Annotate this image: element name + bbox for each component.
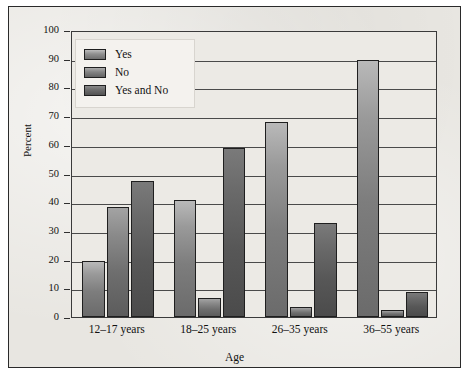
gridline	[72, 176, 436, 177]
legend-item-label: Yes	[115, 49, 132, 61]
y-tick-mark	[64, 261, 70, 262]
bar[interactable]	[406, 292, 429, 317]
x-tick-label: 36–55 years	[346, 323, 438, 335]
bar[interactable]	[107, 207, 130, 317]
figure-frame: Percent 0102030405060708090100 12–17 yea…	[8, 6, 461, 368]
legend-swatch-icon	[84, 67, 106, 78]
legend-item[interactable]: No	[84, 65, 186, 80]
y-tick-mark	[64, 146, 70, 147]
y-tick-label: 40	[33, 197, 59, 208]
y-tick-label: 90	[33, 54, 59, 65]
y-tick-label: 20	[33, 255, 59, 266]
bar[interactable]	[265, 122, 288, 317]
y-axis-title: Percent	[21, 124, 33, 157]
bar[interactable]	[357, 60, 380, 317]
x-tick-label: 12–17 years	[71, 323, 163, 335]
bar[interactable]	[174, 200, 197, 317]
bar[interactable]	[381, 310, 404, 317]
gridline	[72, 118, 436, 119]
y-tick-label: 80	[33, 82, 59, 93]
legend-item[interactable]: Yes and No	[84, 83, 186, 98]
y-tick-mark	[64, 318, 70, 319]
bar[interactable]	[290, 307, 313, 317]
y-tick-mark	[64, 88, 70, 89]
y-tick-mark	[64, 117, 70, 118]
y-tick-mark	[64, 289, 70, 290]
y-tick-label: 70	[33, 111, 59, 122]
legend: Yes No Yes and No	[75, 39, 195, 108]
bar[interactable]	[82, 261, 105, 317]
legend-swatch-icon	[84, 49, 106, 60]
gridline	[72, 204, 436, 205]
y-tick-label: 10	[33, 283, 59, 294]
y-tick-mark	[64, 175, 70, 176]
legend-swatch-icon	[84, 85, 106, 96]
y-tick-label: 0	[33, 312, 59, 323]
y-tick-label: 60	[33, 140, 59, 151]
x-axis-title: Age	[9, 351, 460, 363]
bar[interactable]	[198, 298, 221, 317]
legend-item[interactable]: Yes	[84, 47, 186, 62]
bar[interactable]	[223, 148, 246, 317]
bar[interactable]	[314, 223, 337, 317]
legend-item-label: No	[115, 67, 129, 79]
y-tick-mark	[64, 31, 70, 32]
y-tick-mark	[64, 203, 70, 204]
y-tick-label: 50	[33, 169, 59, 180]
figure-page: Percent 0102030405060708090100 12–17 yea…	[0, 0, 473, 383]
y-tick-label: 100	[33, 25, 59, 36]
y-tick-mark	[64, 60, 70, 61]
x-tick-label: 18–25 years	[163, 323, 255, 335]
gridline	[72, 147, 436, 148]
y-tick-mark	[64, 232, 70, 233]
legend-item-label: Yes and No	[115, 85, 168, 97]
x-tick-label: 26–35 years	[254, 323, 346, 335]
bar[interactable]	[131, 181, 154, 317]
y-tick-label: 30	[33, 226, 59, 237]
plot-wrapper: Percent 0102030405060708090100 12–17 yea…	[9, 7, 460, 367]
